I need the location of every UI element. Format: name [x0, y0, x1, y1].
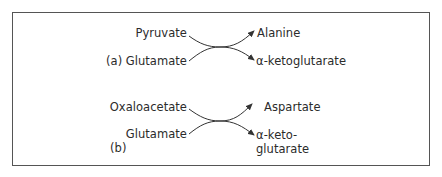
reaction-arrows [0, 0, 442, 177]
arrow-glutamate-to-alanine [189, 31, 254, 61]
arrow-glutamate-to-aspartate [189, 104, 252, 134]
arrow-oxaloacetate-to-alpha-ketoglutarate [189, 109, 254, 135]
